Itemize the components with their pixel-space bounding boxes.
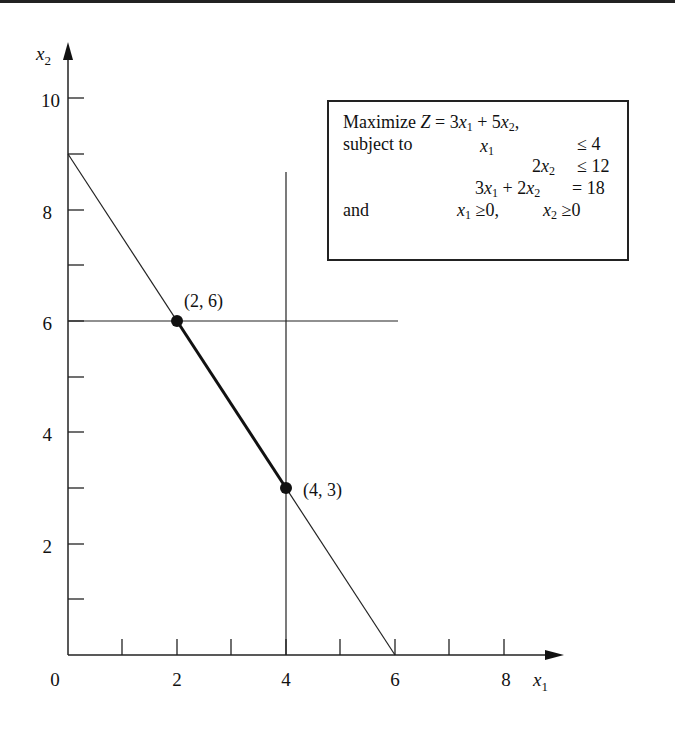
feasible-segment: [177, 321, 286, 488]
nonneg-x1: x1 ≥0,: [457, 200, 499, 223]
x-axis-arrow-icon: [545, 650, 564, 660]
y-tick-labels: 2 4 6 8 10: [41, 90, 60, 557]
svg-text:2: 2: [43, 536, 53, 557]
svg-text:10: 10: [41, 90, 60, 111]
c3-lhs: 3x1 + 2x2: [475, 178, 540, 201]
svg-text:6: 6: [43, 313, 53, 334]
objective-line: Maximize Z = 3x1 + 5x2,: [343, 112, 519, 135]
y-ticks: [68, 98, 84, 599]
and-label: and: [343, 200, 369, 221]
svg-text:6: 6: [390, 669, 400, 690]
y-axis-arrow-icon: [63, 42, 73, 60]
c1-lhs: x1: [480, 136, 494, 159]
c3-rhs: = 18: [572, 178, 605, 199]
point-4-3: [280, 482, 292, 494]
svg-text:4: 4: [281, 669, 291, 690]
svg-text:4: 4: [43, 424, 53, 445]
x-tick-labels: 0 2 4 6 8: [50, 669, 511, 690]
c2-rhs: ≤ 12: [577, 156, 609, 177]
subject-to-label: subject to: [343, 134, 413, 155]
point-2-6: [171, 315, 183, 327]
svg-text:2: 2: [172, 669, 182, 690]
c2-lhs: 2x2: [532, 156, 555, 179]
problem-box: Maximize Z = 3x1 + 5x2, subject to x1 ≤ …: [327, 100, 629, 261]
x-ticks: [122, 639, 504, 655]
y-axis-label: x2: [35, 43, 51, 68]
c1-rhs: ≤ 4: [577, 134, 600, 155]
svg-text:8: 8: [43, 202, 53, 223]
svg-text:8: 8: [501, 669, 511, 690]
point-label-4-3: (4, 3): [303, 480, 342, 501]
nonneg-x2: x2 ≥0: [543, 200, 580, 223]
x-axis-label: x1: [532, 669, 548, 694]
point-label-2-6: (2, 6): [184, 291, 223, 312]
svg-text:0: 0: [50, 669, 60, 690]
